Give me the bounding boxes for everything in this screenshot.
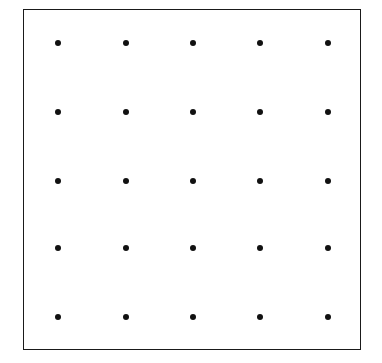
grid-dot-r3-c3 [190,178,196,184]
grid-dot-r1-c1 [55,40,61,46]
grid-dot-r1-c5 [325,40,331,46]
grid-dot-r5-c2 [123,314,129,320]
grid-dot-r4-c5 [325,245,331,251]
grid-dot-r1-c3 [190,40,196,46]
grid-dot-r5-c4 [257,314,263,320]
grid-dot-r4-c2 [123,245,129,251]
grid-dot-r2-c3 [190,109,196,115]
grid-dot-r2-c1 [55,109,61,115]
grid-dot-r1-c2 [123,40,129,46]
grid-dot-r2-c5 [325,109,331,115]
grid-dot-r4-c3 [190,245,196,251]
grid-dot-r3-c1 [55,178,61,184]
grid-dot-r4-c4 [257,245,263,251]
grid-dot-r2-c4 [257,109,263,115]
grid-dot-r5-c1 [55,314,61,320]
grid-dot-r3-c2 [123,178,129,184]
grid-dot-r4-c1 [55,245,61,251]
grid-dot-r2-c2 [123,109,129,115]
grid-dot-r3-c5 [325,178,331,184]
grid-dot-r1-c4 [257,40,263,46]
grid-dot-r5-c3 [190,314,196,320]
grid-dot-r5-c5 [325,314,331,320]
grid-dot-r3-c4 [257,178,263,184]
